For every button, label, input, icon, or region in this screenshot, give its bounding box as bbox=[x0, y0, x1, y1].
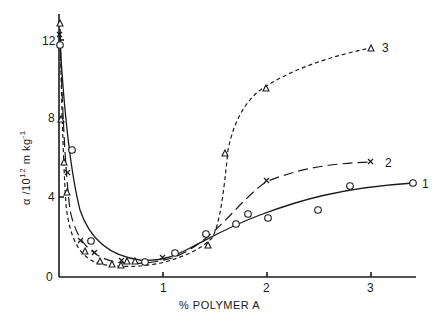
cross-marker bbox=[264, 178, 269, 183]
x-axis-title: % POLYMER A bbox=[179, 299, 260, 311]
triangle-marker bbox=[57, 20, 63, 26]
y-title-exponent: 12 bbox=[18, 168, 27, 178]
y-axis-title: α /1012 m kg-1 bbox=[18, 130, 32, 205]
circle-marker bbox=[410, 180, 417, 187]
triangle-marker bbox=[64, 189, 70, 195]
series-2-label: 2 bbox=[385, 156, 392, 170]
cross-marker bbox=[368, 159, 373, 164]
y-title-main: α /10 bbox=[20, 178, 32, 205]
circle-marker bbox=[57, 42, 64, 49]
svg-text:α /1012 m kg-1: α /1012 m kg-1 bbox=[18, 130, 32, 205]
circle-marker bbox=[203, 231, 210, 238]
y-tick-label-8: 8 bbox=[48, 111, 55, 125]
triangle-marker bbox=[368, 45, 374, 51]
x-tick-label-3: 3 bbox=[367, 281, 374, 295]
series-1-label: 1 bbox=[422, 177, 429, 191]
y-title-unit-exponent: -1 bbox=[18, 130, 27, 138]
triangle-marker bbox=[222, 150, 228, 156]
series-2-markers bbox=[57, 32, 373, 263]
y-tick-label-12: 12 bbox=[42, 34, 56, 48]
y-tick-label-4: 4 bbox=[48, 190, 55, 204]
series-3-markers bbox=[57, 20, 374, 268]
axes bbox=[59, 14, 416, 277]
circle-marker bbox=[265, 215, 272, 222]
circle-marker bbox=[245, 211, 252, 218]
series-1-markers bbox=[57, 42, 417, 266]
triangle-marker bbox=[124, 258, 130, 264]
triangle-marker bbox=[263, 85, 269, 91]
series-2-curve bbox=[60, 32, 371, 263]
triangle-marker bbox=[82, 248, 88, 254]
circle-marker bbox=[233, 221, 240, 228]
y-tick-label-0: 0 bbox=[46, 270, 53, 284]
y-title-unit: m kg bbox=[20, 138, 32, 167]
chart-canvas: 12 8 4 0 1 2 3 % POLYMER A α /1012 m kg-… bbox=[0, 0, 439, 318]
series-3-label: 3 bbox=[382, 41, 389, 55]
circle-marker bbox=[88, 238, 95, 245]
circle-marker bbox=[315, 207, 322, 214]
circle-marker bbox=[172, 250, 179, 257]
x-tick-label-2: 2 bbox=[263, 281, 270, 295]
circle-marker bbox=[347, 183, 354, 190]
triangle-marker bbox=[109, 261, 115, 267]
circle-marker bbox=[69, 147, 76, 154]
circle-marker bbox=[142, 259, 149, 266]
cross-marker bbox=[65, 170, 70, 175]
x-tick-label-1: 1 bbox=[160, 281, 167, 295]
triangle-marker bbox=[97, 258, 103, 264]
